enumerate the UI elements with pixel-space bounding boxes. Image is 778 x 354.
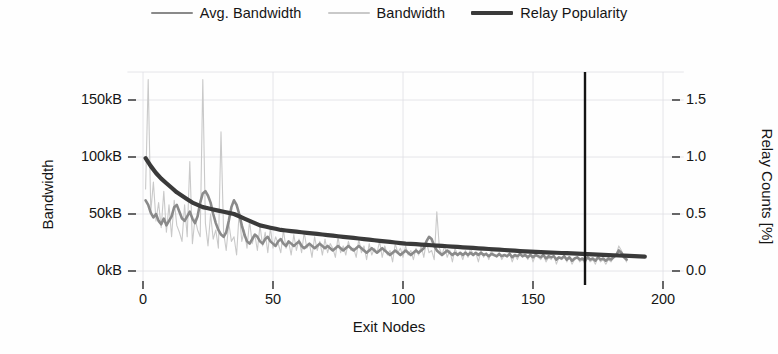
x-tick-label-3: 150 [503,291,563,307]
legend-label-avg-bandwidth: Avg. Bandwidth [200,6,302,21]
x-axis-title: Exit Nodes [0,318,778,335]
legend-swatch-bandwidth [328,12,370,14]
legend-label-relay-popularity: Relay Popularity [520,6,627,21]
x-tick-label-1: 50 [243,291,303,307]
y-axis-title-right: Relay Counts [%] [759,112,776,262]
x-tick-label-0: 0 [113,291,173,307]
chart-legend: Avg. Bandwidth Bandwidth Relay Popularit… [0,6,778,21]
legend-entry-bandwidth: Bandwidth [328,6,446,21]
data-series-layer [146,79,645,264]
y-tick-label-left-1: 50kB [50,205,122,221]
y-tick-label-left-0: 0kB [50,262,122,278]
legend-entry-avg-bandwidth: Avg. Bandwidth [151,6,302,21]
y-tick-label-left-3: 150kB [50,91,122,107]
y-tick-label-left-2: 100kB [50,148,122,164]
y-tick-label-right-3: 1.5 [686,91,746,107]
y-tick-label-right-0: 0.0 [686,262,746,278]
y-tick-label-right-2: 1.0 [686,148,746,164]
series-bandwidth [146,79,627,264]
legend-swatch-avg-bandwidth [151,12,193,14]
x-tick-label-4: 200 [633,291,693,307]
chart-figure: Avg. Bandwidth Bandwidth Relay Popularit… [0,0,778,354]
legend-swatch-relay-popularity [471,11,513,15]
legend-label-bandwidth: Bandwidth [377,6,446,21]
y-tick-label-right-1: 0.5 [686,205,746,221]
series-avg-bandwidth [146,191,627,261]
legend-entry-relay-popularity: Relay Popularity [471,6,627,21]
x-tick-label-2: 100 [373,291,433,307]
